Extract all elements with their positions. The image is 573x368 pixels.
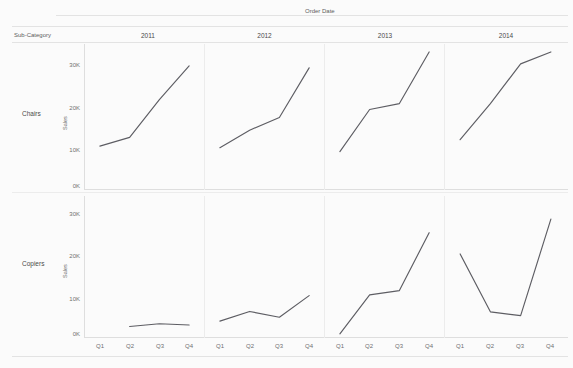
series-line-copiers-2013 (340, 233, 429, 334)
x-tick-2011-q2: Q2 (115, 343, 145, 349)
column-header-2012[interactable]: 2012 (207, 32, 322, 39)
x-tick-2014-q3: Q3 (505, 343, 535, 349)
panel-chairs-2014-svg (445, 44, 566, 190)
y-tick-30k-copiers: 30K (64, 211, 80, 217)
x-tick-2011-q4: Q4 (174, 343, 204, 349)
y-tick-20k-copiers: 20K (64, 253, 80, 259)
panel-copiers-2014[interactable] (445, 196, 566, 338)
panel-chairs-2011-svg (85, 44, 204, 190)
panel-copiers-2012[interactable] (205, 196, 324, 338)
x-tick-2014-q1: Q1 (445, 343, 475, 349)
x-tick-2013-q2: Q2 (354, 343, 384, 349)
column-header-2014[interactable]: 2014 (447, 32, 565, 39)
y-tick-20k-chairs: 20K (64, 105, 80, 111)
y-axis-title-chairs: Sales (62, 116, 68, 130)
x-tick-2013-q1: Q1 (325, 343, 355, 349)
x-tick-2012-q2: Q2 (235, 343, 265, 349)
x-tick-2011-q3: Q3 (145, 343, 175, 349)
y-axis-title-copiers: Sales (62, 264, 68, 278)
series-line-copiers-2012 (220, 296, 309, 321)
x-tick-2013-q3: Q3 (384, 343, 414, 349)
column-header-2013[interactable]: 2013 (326, 32, 444, 39)
panel-chairs-2012[interactable] (205, 44, 324, 190)
header-divider-top (56, 15, 568, 16)
x-tick-2012-q1: Q1 (205, 343, 235, 349)
panel-copiers-2011[interactable] (85, 196, 204, 338)
panel-chairs-2013-svg (325, 44, 444, 190)
y-tick-10k-copiers: 10K (64, 296, 80, 302)
row-field-label: Sub-Category (14, 32, 51, 38)
header-divider-rows (12, 42, 568, 43)
column-field-label: Order Date (305, 8, 335, 14)
x-tick-2013-q4: Q4 (414, 343, 444, 349)
row-header-copiers[interactable]: Copiers (22, 260, 44, 267)
series-line-chairs-2012 (220, 68, 309, 148)
panel-copiers-2012-svg (205, 196, 324, 338)
panel-chairs-2013[interactable] (325, 44, 444, 190)
header-divider-bottom (12, 26, 568, 27)
footer-divider (12, 356, 568, 357)
panel-copiers-2014-svg (445, 196, 566, 338)
panel-copiers-2011-svg (85, 196, 204, 338)
series-line-chairs-2011 (100, 66, 189, 146)
y-tick-10k-chairs: 10K (64, 147, 80, 153)
series-line-copiers-2011 (130, 324, 190, 327)
y-tick-0k-chairs: 0K (64, 183, 80, 189)
trellis-chart-viz: Order Date 2011 2012 2013 2014 Sub-Categ… (0, 0, 573, 368)
series-line-chairs-2013 (340, 52, 429, 152)
x-tick-2012-q4: Q4 (294, 343, 324, 349)
x-tick-2014-q4: Q4 (535, 343, 565, 349)
y-tick-0k-copiers: 0K (64, 331, 80, 337)
panel-copiers-2013-svg (325, 196, 444, 338)
panel-chairs-2014[interactable] (445, 44, 566, 190)
y-tick-30k-chairs: 30K (64, 62, 80, 68)
panel-copiers-2013[interactable] (325, 196, 444, 338)
panel-chairs-2011[interactable] (85, 44, 204, 190)
column-header-2011[interactable]: 2011 (92, 32, 204, 39)
x-tick-2012-q3: Q3 (264, 343, 294, 349)
panel-chairs-2012-svg (205, 44, 324, 190)
series-line-copiers-2014 (460, 219, 551, 316)
series-line-chairs-2014 (460, 52, 551, 140)
row-header-chairs[interactable]: Chairs (22, 110, 41, 117)
row-separator (12, 192, 568, 193)
x-tick-2014-q2: Q2 (475, 343, 505, 349)
x-tick-2011-q1: Q1 (85, 343, 115, 349)
